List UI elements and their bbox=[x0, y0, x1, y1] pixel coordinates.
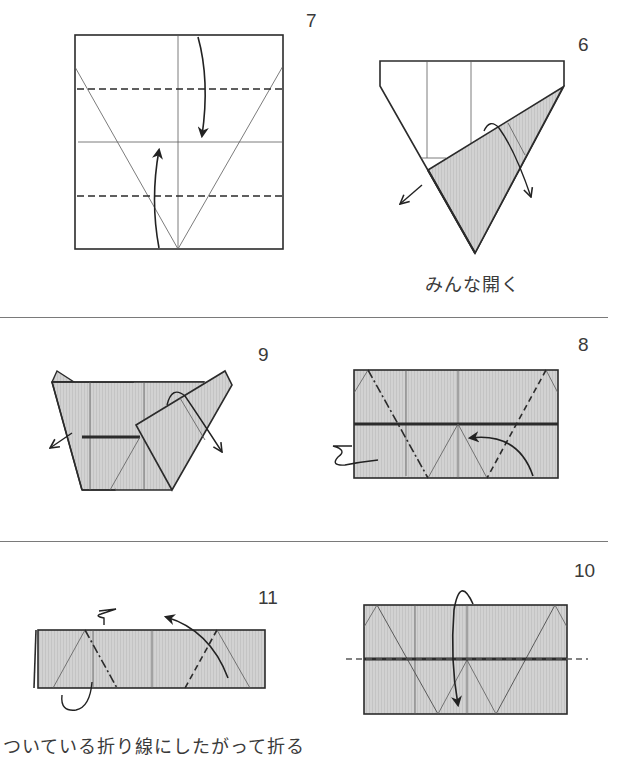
step-6-diagram bbox=[380, 61, 564, 253]
step-7-diagram bbox=[75, 35, 283, 249]
origami-diagrams bbox=[0, 0, 625, 771]
step-10-diagram bbox=[346, 591, 588, 714]
step-11-diagram bbox=[34, 609, 265, 710]
step-8-diagram bbox=[333, 370, 558, 478]
step-9-diagram bbox=[50, 371, 232, 490]
open-left-arrow bbox=[400, 185, 422, 204]
mountain-fold-symbol bbox=[98, 609, 116, 625]
